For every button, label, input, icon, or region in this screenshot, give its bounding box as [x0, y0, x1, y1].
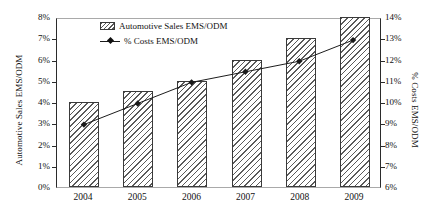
- left-tick-label: 7%: [24, 34, 50, 43]
- right-tick-label: 8%: [385, 141, 411, 150]
- hatched-swatch-icon: [100, 22, 115, 30]
- data-point-2004: [81, 121, 87, 127]
- left-tick-label: 4%: [24, 98, 50, 107]
- legend-item-percent-costs: % Costs EMS/ODM: [100, 34, 198, 48]
- data-point-2008: [296, 58, 302, 64]
- left-tick-label: 3%: [24, 119, 50, 128]
- tick-mark: [381, 146, 385, 147]
- left-tick-label: 8%: [24, 13, 50, 22]
- tick-mark: [381, 39, 385, 40]
- tick-mark: [381, 124, 385, 125]
- right-tick-label: 13%: [385, 34, 411, 43]
- right-tick-label: 12%: [385, 56, 411, 65]
- left-axis-title: Automotive Sales EMS/ODM: [14, 35, 24, 185]
- left-axis-tick-labels: 0%1%2%3%4%5%6%7%8%: [24, 18, 50, 188]
- tick-mark: [381, 103, 385, 104]
- left-tick-label: 5%: [24, 77, 50, 86]
- legend-label-automotive-sales: Automotive Sales EMS/ODM: [119, 21, 228, 31]
- legend-item-automotive-sales: Automotive Sales EMS/ODM: [100, 19, 228, 33]
- tick-mark: [381, 61, 385, 62]
- x-tick-label-2005: 2005: [107, 192, 167, 202]
- x-tick-label-2009: 2009: [324, 192, 384, 202]
- tick-mark: [381, 167, 385, 168]
- x-tick-label-2004: 2004: [53, 192, 113, 202]
- legend-label-percent-costs: % Costs EMS/ODM: [124, 36, 198, 46]
- chart-figure: Automotive Sales EMS/ODM % Costs EMS/ODM…: [0, 0, 433, 222]
- right-tick-label: 7%: [385, 162, 411, 171]
- right-axis-title: % Costs EMS/ODM: [410, 35, 420, 185]
- left-tick-label: 0%: [24, 183, 50, 192]
- x-tick-label-2006: 2006: [161, 192, 221, 202]
- left-tick-label: 1%: [24, 162, 50, 171]
- data-point-2007: [242, 69, 248, 75]
- tick-mark: [381, 82, 385, 83]
- right-axis-tick-labels: 6%7%8%9%10%11%12%13%14%: [385, 18, 411, 188]
- left-tick-label: 2%: [24, 141, 50, 150]
- left-tick-label: 6%: [24, 56, 50, 65]
- chart-legend: Automotive Sales EMS/ODM % Costs EMS/ODM: [100, 19, 315, 53]
- right-tick-label: 14%: [385, 13, 411, 22]
- right-tick-label: 6%: [385, 183, 411, 192]
- data-point-2006: [188, 79, 194, 85]
- x-tick-label-2008: 2008: [270, 192, 330, 202]
- data-point-2009: [350, 37, 356, 43]
- right-tick-label: 9%: [385, 119, 411, 128]
- right-tick-label: 10%: [385, 98, 411, 107]
- right-tick-label: 11%: [385, 77, 411, 86]
- line-diamond-icon: [100, 37, 120, 46]
- x-axis-tick-labels: 200420052006200720082009: [56, 192, 381, 210]
- data-point-2005: [135, 100, 141, 106]
- x-tick-label-2007: 2007: [216, 192, 276, 202]
